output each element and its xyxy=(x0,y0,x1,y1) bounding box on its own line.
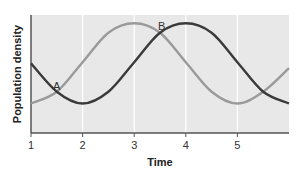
x-axis-ticks: 12345 xyxy=(28,133,241,151)
curve-a-label: A xyxy=(53,80,61,92)
x-axis-title: Time xyxy=(147,156,172,168)
x-tick-label: 1 xyxy=(28,139,34,151)
x-tick-label: 2 xyxy=(80,139,86,151)
curve-b-label: B xyxy=(158,20,165,32)
population-density-chart: 12345 A B Time Population density xyxy=(0,0,302,174)
x-tick-label: 3 xyxy=(131,139,137,151)
x-tick-label: 5 xyxy=(234,139,240,151)
x-tick-label: 4 xyxy=(183,139,189,151)
y-axis-title: Population density xyxy=(11,24,23,123)
